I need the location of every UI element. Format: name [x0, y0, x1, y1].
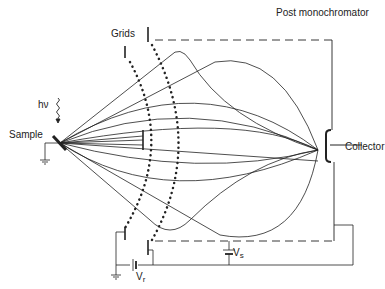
photon-label: hν [38, 99, 49, 110]
post-monochromator-enclosure [155, 40, 334, 241]
circuit-wiring [116, 225, 353, 265]
vr-battery-icon [133, 259, 136, 271]
retarding-field-analyzer-diagram: Post monochromator Grids hν Sample Colle… [0, 0, 385, 289]
sample-label: Sample [9, 129, 43, 140]
post-monochromator-label: Post monochromator [276, 7, 369, 18]
electron-trajectories [60, 51, 318, 237]
photon-wave-icon [56, 98, 60, 123]
grids-label: Grids [111, 28, 135, 39]
collector-label: Collector [345, 141, 385, 152]
grid-tabs [125, 27, 148, 255]
vr-label: Vr [136, 271, 146, 284]
sample-icon [45, 136, 66, 160]
vs-label: Vs [233, 247, 244, 260]
ground-icon [40, 160, 50, 164]
ground-icon-bottom [111, 265, 121, 279]
outer-grid [152, 45, 179, 240]
